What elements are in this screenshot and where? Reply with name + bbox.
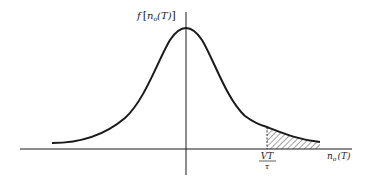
threshold-denominator: τ — [265, 162, 270, 171]
threshold-numerator: VT — [261, 151, 274, 161]
x-axis-label: no(T) — [327, 151, 351, 162]
threshold-label: VT τ — [259, 151, 276, 171]
density-diagram: f[no(T)] VT τ no(T) — [0, 0, 370, 183]
shaded-tail-region — [267, 120, 322, 150]
y-axis-label: f[no(T)] — [136, 9, 176, 22]
